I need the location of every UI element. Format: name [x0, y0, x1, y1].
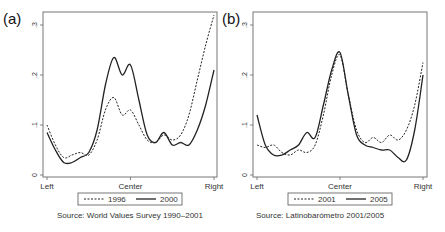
y-tick-label: 0 — [31, 173, 38, 177]
chart-canvas: (a) 0.1.2.3 LeftCenterRight 19962000 Sou… — [0, 0, 445, 232]
panel-b-lines — [257, 52, 423, 162]
y-tick-label: .1 — [241, 122, 248, 128]
x-tick-label: Center — [118, 182, 142, 191]
panel-b: (b) 0.1.2.3 LeftCenterRight 20012005 Sou… — [222, 10, 433, 220]
y-tick-label: 0 — [241, 173, 248, 177]
panel-a-frame — [43, 12, 217, 177]
y-tick-label: .3 — [31, 22, 38, 28]
x-tick-label: Right — [414, 182, 433, 191]
x-tick-label: Right — [205, 182, 224, 191]
panel-b-frame — [253, 12, 427, 177]
panel-a-x-axis: LeftCenterRight — [40, 177, 224, 191]
panel-a-lines — [47, 15, 214, 164]
panel-a: (a) 0.1.2.3 LeftCenterRight 19962000 Sou… — [3, 10, 224, 220]
y-tick-label: .1 — [31, 122, 38, 128]
y-tick-label: .2 — [241, 72, 248, 78]
panel-a-source: Source: World Values Survey 1990–2001 — [57, 211, 204, 220]
x-tick-label: Left — [250, 182, 264, 191]
panel-b-source: Source: Latinobarómetro 2001/2005 — [256, 211, 385, 220]
panel-a-label: (a) — [3, 10, 21, 27]
y-tick-label: .2 — [31, 72, 38, 78]
panel-b-x-axis: LeftCenterRight — [250, 177, 433, 191]
legend-label: 2005 — [370, 195, 388, 204]
y-tick-label: .3 — [241, 22, 248, 28]
legend-label: 2001 — [318, 195, 336, 204]
legend-label: 2000 — [160, 195, 178, 204]
series-line-1996 — [47, 15, 214, 158]
legend-label: 1996 — [108, 195, 126, 204]
series-line-2005 — [257, 52, 423, 162]
x-tick-label: Left — [40, 182, 54, 191]
series-line-2001 — [257, 54, 423, 155]
panel-b-label: (b) — [222, 10, 240, 27]
panel-a-y-axis: 0.1.2.3 — [31, 22, 43, 177]
panel-b-y-axis: 0.1.2.3 — [241, 22, 253, 177]
x-tick-label: Center — [328, 182, 352, 191]
